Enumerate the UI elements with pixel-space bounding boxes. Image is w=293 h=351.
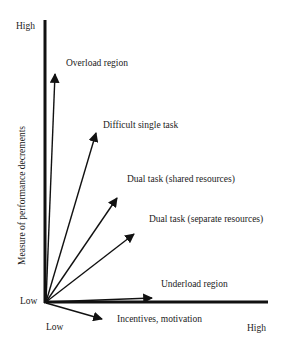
arrow-dual-task-separate (46, 234, 134, 302)
y-axis-title: Measure of performance decrements (18, 126, 28, 265)
arrow-difficult-single-task (46, 133, 96, 302)
x-axis-high-label: High (247, 324, 266, 334)
x-axis-low-label: Low (46, 323, 63, 333)
incentives-motivation-label: Incentives, motivation (117, 315, 202, 325)
dual-task-shared-label: Dual task (shared resources) (127, 175, 235, 185)
difficult-single-task-label: Difficult single task (103, 121, 178, 131)
underload-region-label: Underload region (161, 280, 228, 290)
arrow-overload-region (46, 74, 55, 302)
performance-decrement-diagram: High Low Measure of performance decremen… (0, 0, 293, 351)
overload-region-label: Overload region (66, 59, 128, 69)
arrow-incentives-motivation (46, 303, 102, 319)
y-axis-low-label: Low (20, 297, 37, 307)
arrow-dual-task-shared (46, 198, 117, 302)
y-axis-high-label: High (16, 22, 35, 32)
dual-task-separate-label: Dual task (separate resources) (149, 215, 263, 225)
